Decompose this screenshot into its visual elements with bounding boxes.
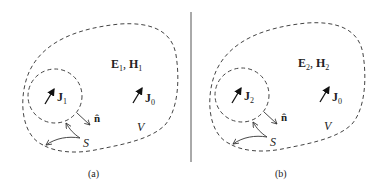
caption-a: (a) [88,168,99,180]
inner-boundary-circle [215,68,269,122]
inner-current-label: J2 [244,89,254,105]
surface-pointer-arrow-icon [46,137,80,145]
current-arrow-icon [232,88,241,103]
surface-label: S [83,136,89,150]
surface-label: S [270,135,276,149]
outer-boundary-curve [23,24,178,152]
inner-current-label: J1 [57,90,67,106]
field-label: E1, H1 [111,57,142,73]
normal-vector-arrow-icon [264,112,277,124]
outer-current-label: J0 [145,91,155,107]
normal-label: n̂ [94,112,100,124]
volume-label: V [137,120,146,134]
caption-b: (b) [275,168,287,180]
reciprocity-diagram: J1 J0 E1, H1 n̂ V S (a) J2 J0 E2, H2 n̂ … [0,0,383,188]
panel-a: J1 J0 E1, H1 n̂ V S (a) [23,24,178,180]
normal-vector-arrow-icon [77,113,90,125]
current-arrow-icon [45,89,54,104]
surface-pointer-arrow-icon [66,123,80,138]
field-label: E2, H2 [298,56,329,72]
inner-boundary-circle [28,69,82,123]
surface-pointer-arrow-icon [253,122,267,137]
normal-label: n̂ [281,111,287,123]
outer-boundary-curve [210,23,365,151]
current-arrow-icon [133,88,142,103]
panel-b: J2 J0 E2, H2 n̂ V S (b) [210,23,365,180]
outer-current-label: J0 [332,90,342,106]
current-arrow-icon [320,87,329,102]
volume-label: V [324,119,333,133]
surface-pointer-arrow-icon [233,136,267,144]
